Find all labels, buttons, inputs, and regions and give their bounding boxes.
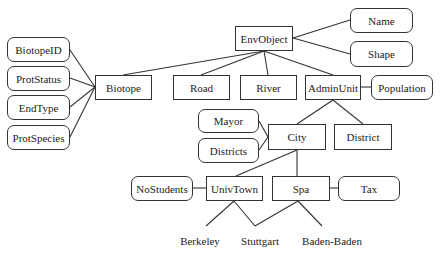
connector-line [70,50,95,87]
connector-line [255,201,298,226]
node-label: Mayor [214,115,243,127]
node-label: EnvObject [240,33,287,45]
class-node-city: City [268,124,326,150]
attribute-node-name: Name [350,8,413,33]
connector-line [293,20,350,38]
node-label: River [256,82,280,94]
connector-line [234,201,255,226]
node-label: AdminUnit [308,82,358,94]
connector-line [206,201,234,226]
connector-line [264,51,268,75]
node-label: Tax [361,183,377,195]
attribute-node-nostudents: NoStudents [131,176,193,201]
node-label: Biotope [106,82,141,94]
class-node-univtown: UnivTown [206,176,263,201]
attribute-node-districts: Districts [198,138,259,163]
connector-line [264,51,333,75]
node-label: Population [378,82,426,94]
connector-line [259,137,268,150]
connector-line [293,38,350,54]
connector-line [70,87,95,107]
class-node-road: Road [173,75,230,100]
node-label: ProtStatus [16,73,61,85]
instance-label-stuttgart: Stuttgart [241,235,279,247]
node-label: District [347,131,380,143]
connector-line [70,78,95,87]
class-node-district: District [334,124,392,150]
connector-line [297,100,333,124]
attribute-node-protspecies: ProtSpecies [7,125,70,150]
node-label: NoStudents [136,183,187,195]
connector-line [70,87,95,137]
class-node-adminunit: AdminUnit [305,75,361,100]
class-hierarchy-diagram: EnvObjectBiotopeRoadRiverAdminUnitCityDi… [0,0,441,253]
node-label: City [288,131,307,143]
node-label: UnivTown [211,183,258,195]
attribute-node-biotopeid: BiotopeID [7,37,70,62]
node-label: Name [368,15,394,27]
node-label: BiotopeID [15,44,61,56]
connector-line [259,121,268,137]
node-label: Road [190,82,213,94]
node-label: Districts [210,145,247,157]
attribute-node-protstatus: ProtStatus [7,66,70,91]
instance-label-berkeley: Berkeley [180,235,220,247]
class-node-biotope: Biotope [95,75,152,100]
class-node-spa: Spa [272,176,330,201]
connector-line [201,51,264,75]
node-label: Shape [368,48,395,60]
node-label: ProtSpecies [13,132,65,144]
attribute-node-endtype: EndType [7,95,70,120]
attribute-node-population: Population [371,75,433,100]
class-node-river: River [240,75,297,100]
instance-label-badenbaden: Baden-Baden [302,235,362,247]
attribute-node-tax: Tax [338,176,400,201]
node-label: Spa [293,183,310,195]
node-label: EndType [19,102,59,114]
attribute-node-mayor: Mayor [198,109,259,133]
attribute-node-shape: Shape [350,41,413,67]
connector-line [333,100,363,124]
connector-line [298,201,322,226]
class-node-envobject: EnvObject [235,26,293,51]
connector-line [123,51,264,75]
